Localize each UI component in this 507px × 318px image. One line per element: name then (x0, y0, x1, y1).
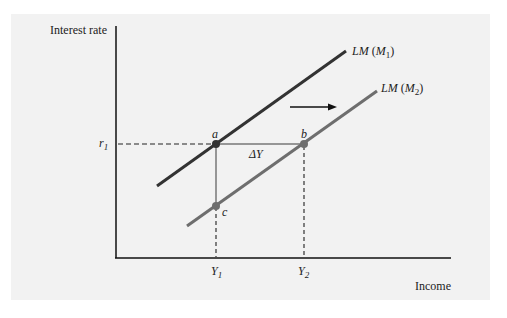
y2-label: Y2 (298, 264, 309, 280)
lm-m2-label: LM (M2) (381, 81, 423, 97)
y-axis-label: Interest rate (50, 23, 107, 38)
y1-label: Y1 (211, 264, 222, 280)
point-c (212, 202, 220, 210)
delta-y-label: ΔY (249, 147, 263, 162)
lm-m1-curve (157, 51, 346, 186)
point-a-label: a (212, 127, 218, 142)
r1-label: r1 (99, 136, 108, 152)
point-c-label: c (222, 205, 227, 220)
lm-m1-label: LM (M1) (352, 44, 394, 60)
arrow-head-icon (328, 104, 337, 111)
point-b-label: b (301, 127, 307, 142)
x-axis-label: Income (415, 279, 451, 294)
